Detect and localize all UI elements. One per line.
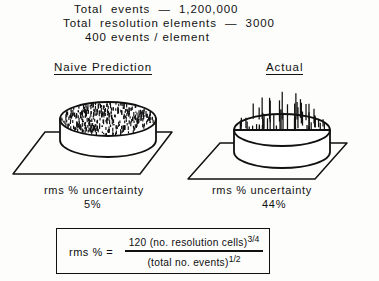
header-total-events: Total events — 1,200,000 [74, 3, 238, 15]
formula-fraction: 120 (no. resolution cells)3/4 (total no.… [125, 234, 263, 268]
ground-plane-left [13, 132, 172, 174]
figure-canvas: Total events — 1,200,000 Total resolutio… [0, 0, 379, 281]
formula-fraction-bar [125, 250, 263, 251]
formula-denominator: (total no. events)1/2 [125, 253, 263, 268]
formula-denominator-exponent: 1/2 [229, 254, 241, 264]
caption-value-left: 5% [84, 198, 101, 210]
formula-numerator-text: 120 (no. resolution cells) [129, 237, 248, 248]
formula-left-hand-side: rms % = [69, 246, 113, 258]
header-events-per-element: 400 events / element [85, 31, 210, 43]
formula-denominator-text: (total no. events) [147, 257, 228, 268]
naive-prediction-illustration [13, 102, 172, 174]
panel-title-naive-prediction: Naive Prediction [54, 61, 152, 75]
formula-numerator: 120 (no. resolution cells)3/4 [125, 234, 263, 249]
ground-plane-right [188, 143, 347, 179]
caption-label-left: rms % uncertainty [44, 184, 144, 196]
disc-body-left [60, 119, 156, 157]
caption-label-right: rms % uncertainty [212, 184, 312, 196]
formula-box: rms % = 120 (no. resolution cells)3/4 (t… [56, 228, 270, 274]
panel-title-actual: Actual [266, 61, 303, 75]
actual-illustration [188, 92, 347, 179]
disc-top-left [60, 102, 156, 136]
header-total-resolution-elements: Total resolution elements — 3000 [63, 17, 275, 29]
disc-top-right [234, 114, 330, 146]
spike-field [240, 92, 324, 144]
caption-value-right: 44% [262, 198, 286, 210]
formula-numerator-exponent: 3/4 [247, 234, 259, 244]
disc-body-right [234, 130, 330, 168]
stipple-texture [62, 102, 153, 136]
